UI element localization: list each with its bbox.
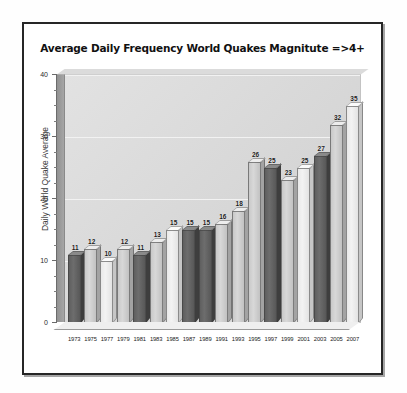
bar[interactable]: 12 bbox=[117, 249, 130, 323]
bar-side-face bbox=[359, 101, 363, 323]
y-axis-tick: 0 bbox=[52, 322, 57, 323]
y-axis-minor-tick bbox=[54, 90, 57, 91]
y-axis-minor-tick bbox=[54, 105, 57, 106]
chart-page: Average Daily Frequency World Quakes Mag… bbox=[0, 0, 407, 393]
bar-value-label: 16 bbox=[219, 213, 226, 220]
y-axis-tick: 20 bbox=[52, 198, 57, 199]
y-axis-minor-tick bbox=[54, 229, 57, 230]
bar-front-face bbox=[330, 125, 343, 323]
bar[interactable]: 10 bbox=[100, 261, 113, 323]
bar-value-label: 23 bbox=[285, 169, 292, 176]
y-axis-tick: 30 bbox=[52, 136, 57, 137]
y-axis-minor-tick bbox=[54, 152, 57, 153]
bar[interactable]: 32 bbox=[330, 125, 343, 323]
bar[interactable]: 15 bbox=[199, 230, 212, 323]
bar[interactable]: 35 bbox=[346, 106, 359, 323]
bar[interactable]: 23 bbox=[281, 180, 294, 323]
x-axis-tick-label: 1979 bbox=[117, 336, 130, 342]
bar-front-face bbox=[182, 230, 195, 323]
plot-side-wall bbox=[56, 74, 65, 322]
x-axis-tick-label: 1999 bbox=[281, 336, 294, 342]
bar[interactable]: 11 bbox=[68, 255, 81, 323]
bar-front-face bbox=[84, 249, 97, 323]
bar[interactable]: 25 bbox=[264, 168, 277, 323]
bar-value-label: 11 bbox=[72, 244, 79, 251]
bar-value-label: 15 bbox=[203, 219, 210, 226]
y-axis-minor-tick bbox=[54, 183, 57, 184]
y-axis-minor-tick bbox=[54, 121, 57, 122]
chart-frame: Average Daily Frequency World Quakes Mag… bbox=[22, 22, 383, 375]
bar-front-face bbox=[232, 211, 245, 323]
bar-value-label: 25 bbox=[268, 157, 275, 164]
bar[interactable]: 26 bbox=[248, 162, 261, 323]
bar-value-label: 13 bbox=[154, 231, 161, 238]
x-axis-tick-label: 1989 bbox=[199, 336, 212, 342]
bar[interactable]: 25 bbox=[297, 168, 310, 323]
plot-wrapper: 111210121113151515161826252325273235 010… bbox=[56, 74, 368, 336]
bar[interactable]: 12 bbox=[84, 249, 97, 323]
y-axis-tick-label: 10 bbox=[40, 257, 48, 264]
bar[interactable]: 16 bbox=[215, 224, 228, 323]
bar-front-face bbox=[68, 255, 81, 323]
x-axis-tick-label: 2007 bbox=[347, 336, 360, 342]
bar-value-label: 25 bbox=[301, 157, 308, 164]
x-axis-tick-label: 1983 bbox=[150, 336, 163, 342]
bar[interactable]: 15 bbox=[166, 230, 179, 323]
bar-front-face bbox=[297, 168, 310, 323]
y-axis-minor-tick bbox=[54, 307, 57, 308]
bar-front-face bbox=[264, 168, 277, 323]
bar-value-label: 12 bbox=[121, 238, 128, 245]
y-axis-tick: 40 bbox=[52, 74, 57, 75]
bar[interactable]: 11 bbox=[133, 255, 146, 323]
x-axis-tick-label: 1997 bbox=[265, 336, 278, 342]
bar-front-face bbox=[314, 156, 327, 323]
gridline bbox=[65, 137, 360, 138]
bar-front-face bbox=[215, 224, 228, 323]
bar[interactable]: 15 bbox=[182, 230, 195, 323]
y-axis-tick-label: 30 bbox=[40, 133, 48, 140]
bar[interactable]: 13 bbox=[150, 242, 163, 323]
x-axis-tick-label: 1985 bbox=[166, 336, 179, 342]
bar-front-face bbox=[150, 242, 163, 323]
bar-front-face bbox=[346, 106, 359, 323]
bar[interactable]: 18 bbox=[232, 211, 245, 323]
x-axis-labels: 1973197519771979198119831985198719891991… bbox=[65, 336, 360, 350]
bar-value-label: 18 bbox=[236, 200, 243, 207]
plot-area: 111210121113151515161826252325273235 bbox=[65, 74, 361, 323]
x-axis-tick-label: 1987 bbox=[183, 336, 196, 342]
x-axis-tick-label: 2005 bbox=[330, 336, 343, 342]
x-axis-tick-label: 1975 bbox=[84, 336, 97, 342]
bar-front-face bbox=[281, 180, 294, 323]
y-axis-tick-label: 20 bbox=[40, 195, 48, 202]
x-axis-tick-label: 1973 bbox=[68, 336, 81, 342]
y-axis-minor-tick bbox=[54, 291, 57, 292]
bar-front-face bbox=[100, 261, 113, 323]
x-axis-tick-label: 1995 bbox=[248, 336, 261, 342]
y-axis-minor-tick bbox=[54, 214, 57, 215]
bar-value-label: 32 bbox=[334, 114, 341, 121]
bar-front-face bbox=[199, 230, 212, 323]
chart-title: Average Daily Frequency World Quakes Mag… bbox=[24, 42, 381, 54]
bar[interactable]: 27 bbox=[314, 156, 327, 323]
x-axis-tick-label: 1991 bbox=[215, 336, 228, 342]
y-axis-tick-label: 0 bbox=[44, 319, 48, 326]
y-axis-tick: 10 bbox=[52, 260, 57, 261]
bar-value-label: 10 bbox=[104, 250, 111, 257]
bar-front-face bbox=[248, 162, 261, 323]
gridline bbox=[65, 75, 360, 76]
bar-value-label: 12 bbox=[88, 238, 95, 245]
y-axis-tick-label: 40 bbox=[40, 71, 48, 78]
bar-value-label: 26 bbox=[252, 151, 259, 158]
x-axis-tick-label: 2003 bbox=[314, 336, 327, 342]
bar-front-face bbox=[133, 255, 146, 323]
plot-floor bbox=[54, 322, 360, 330]
x-axis-tick-label: 1981 bbox=[134, 336, 147, 342]
bar-front-face bbox=[166, 230, 179, 323]
y-axis-minor-tick bbox=[54, 245, 57, 246]
bar-value-label: 15 bbox=[170, 219, 177, 226]
bar-value-label: 15 bbox=[186, 219, 193, 226]
x-axis-tick-label: 2001 bbox=[297, 336, 310, 342]
bar-front-face bbox=[117, 249, 130, 323]
y-axis-minor-tick bbox=[54, 276, 57, 277]
bar-value-label: 11 bbox=[137, 244, 144, 251]
